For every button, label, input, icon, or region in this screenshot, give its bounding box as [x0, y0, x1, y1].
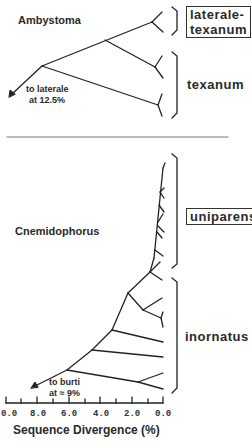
bracket [172, 7, 177, 35]
group-label-uniparens: uniparens [186, 208, 252, 225]
genus-label-ambystoma: Ambystoma [18, 14, 81, 26]
outgroup-note-line1: to burti [49, 377, 80, 388]
genus-label-cnemidophorus: Cnemidophorus [15, 225, 99, 237]
outgroup-note-line2: at 12.5% [26, 95, 69, 106]
outgroup-note: to laterale at 12.5% [26, 84, 69, 106]
outgroup-note-line1: to laterale [26, 84, 69, 95]
cnemidophorus-tree [35, 163, 165, 389]
bracket [172, 52, 177, 118]
tick-label: 0.0 [1, 409, 17, 419]
group-label-texanum: texanum [187, 77, 244, 92]
tick-label: 8.0 [30, 409, 46, 419]
group-label-line2: texanum [190, 22, 247, 37]
bracket [172, 278, 177, 393]
outgroup-note-burti: to burti at ≈ 9% [49, 377, 80, 399]
outgroup-note-line2: at ≈ 9% [49, 388, 80, 399]
tick-label: 2.0 [124, 409, 140, 419]
group-label-laterale-texanum: laterale- texanum [186, 6, 251, 38]
tick-label: 4.0 [93, 409, 109, 419]
arrow-icon [31, 382, 38, 388]
group-label-inornatus: inornatus [185, 329, 249, 344]
axis-title: Sequence Divergence (%) [13, 423, 160, 437]
tick-label: 6.0 [61, 409, 77, 419]
bracket [172, 154, 177, 268]
arrow-icon [9, 90, 15, 97]
group-label-line1: laterale- [190, 7, 247, 22]
tick-label: 0.0 [155, 409, 171, 419]
